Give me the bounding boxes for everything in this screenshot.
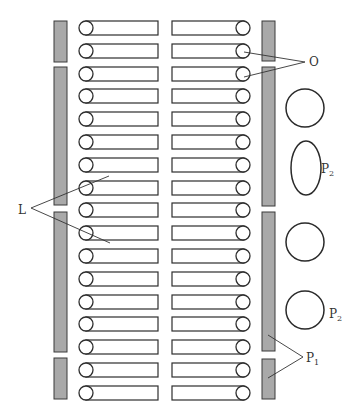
right-pill-body (172, 295, 244, 309)
left-pill-end-circle (79, 249, 93, 263)
left-pill-end-circle (79, 135, 93, 149)
right-pill-end-circle (236, 44, 250, 58)
left-pill-end-circle (79, 44, 93, 58)
right-pill-end-circle (236, 135, 250, 149)
pill-row (79, 112, 250, 126)
left-pill-end-circle (79, 158, 93, 172)
right-pill-end-circle (236, 386, 250, 400)
pill-row (79, 363, 250, 377)
left-pill-end-circle (79, 21, 93, 35)
left-pill-body (86, 112, 158, 126)
pill-row (79, 203, 250, 217)
right-pill-body (172, 249, 244, 263)
label-l: L (18, 203, 26, 217)
left-pill-body (86, 386, 158, 400)
left-pill-body (86, 21, 158, 35)
left-pill-body (86, 67, 158, 81)
right-pill-end-circle (236, 21, 250, 35)
right-bar-4 (262, 359, 275, 399)
right-pill-end-circle (236, 317, 250, 331)
left-pill-end-circle (79, 363, 93, 377)
left-pill-end-circle (79, 226, 93, 240)
left-pill-end-circle (79, 386, 93, 400)
right-pill-end-circle (236, 158, 250, 172)
right-pill-body (172, 181, 244, 195)
p2-circle-4 (286, 291, 324, 329)
right-pill-body (172, 158, 244, 172)
left-pill-body (86, 272, 158, 286)
diagram-canvas: O L P2 P2 P1 (0, 0, 355, 412)
pill-row (79, 272, 250, 286)
left-pill-end-circle (79, 340, 93, 354)
pill-row (79, 295, 250, 309)
right-pill-body (172, 89, 244, 103)
p2-ellipse-2 (291, 141, 321, 195)
pill-row (79, 158, 250, 172)
label-p2-bottom: P2 (329, 307, 342, 323)
pill-row (79, 21, 250, 35)
right-bars-group (262, 21, 275, 399)
right-pill-body (172, 386, 244, 400)
right-pill-end-circle (236, 203, 250, 217)
right-pill-body (172, 272, 244, 286)
right-pill-body (172, 135, 244, 149)
right-pill-end-circle (236, 67, 250, 81)
right-pill-body (172, 363, 244, 377)
pill-row (79, 386, 250, 400)
p2-shapes-group (286, 89, 324, 329)
right-pill-end-circle (236, 272, 250, 286)
right-bar-3 (262, 212, 275, 351)
left-pill-end-circle (79, 317, 93, 331)
pill-row (79, 317, 250, 331)
left-pill-end-circle (79, 272, 93, 286)
pill-row (79, 44, 250, 58)
left-pill-body (86, 295, 158, 309)
left-pill-body (86, 89, 158, 103)
left-pill-end-circle (79, 295, 93, 309)
left-pill-body (86, 226, 158, 240)
right-pill-body (172, 317, 244, 331)
left-pill-body (86, 340, 158, 354)
left-pill-body (86, 44, 158, 58)
left-pill-body (86, 249, 158, 263)
pill-row (79, 181, 250, 195)
left-pill-body (86, 158, 158, 172)
right-pill-end-circle (236, 89, 250, 103)
p2-circle-1 (286, 89, 324, 127)
right-pill-end-circle (236, 226, 250, 240)
right-pill-end-circle (236, 249, 250, 263)
pill-row (79, 135, 250, 149)
right-pill-body (172, 203, 244, 217)
label-o: O (309, 55, 319, 69)
left-pill-body (86, 203, 158, 217)
left-pill-body (86, 135, 158, 149)
pill-row (79, 67, 250, 81)
right-bar-2 (262, 67, 275, 206)
label-p2-top: P2 (321, 162, 334, 178)
left-bar-2 (54, 67, 67, 205)
left-bar-1 (54, 21, 67, 62)
left-pill-end-circle (79, 67, 93, 81)
right-pill-body (172, 226, 244, 240)
right-pill-body (172, 21, 244, 35)
right-pill-body (172, 340, 244, 354)
pill-row (79, 340, 250, 354)
right-pill-end-circle (236, 181, 250, 195)
pill-row (79, 249, 250, 263)
left-pill-body (86, 181, 158, 195)
right-pill-end-circle (236, 340, 250, 354)
right-pill-body (172, 112, 244, 126)
right-pill-body (172, 44, 244, 58)
pill-row (79, 89, 250, 103)
left-pill-body (86, 363, 158, 377)
left-pill-end-circle (79, 89, 93, 103)
label-p1: P1 (306, 351, 319, 367)
p2-circle-3 (286, 223, 324, 261)
left-bar-4 (54, 358, 67, 399)
pill-rows-group (79, 21, 250, 400)
right-pill-end-circle (236, 363, 250, 377)
left-bar-3 (54, 212, 67, 352)
left-bars-group (54, 21, 67, 399)
left-pill-end-circle (79, 112, 93, 126)
right-pill-body (172, 67, 244, 81)
